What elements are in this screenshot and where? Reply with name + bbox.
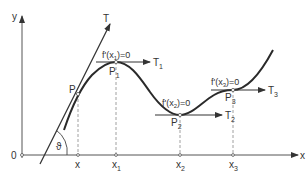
tick-x2 (179, 154, 182, 157)
annotation-f-prime-x2: f'(x2)=0 (162, 98, 190, 109)
label-T2: T2 (225, 110, 235, 123)
label-P1: P1 (109, 66, 120, 79)
label-P2: P2 (171, 117, 182, 130)
origin-point (21, 154, 24, 157)
tick-x3 (232, 154, 235, 157)
angle-label: ϑ (56, 141, 62, 152)
tick-label-x2: x2 (176, 159, 185, 172)
tick-label-x: x (75, 159, 80, 170)
label-T: T (103, 13, 109, 24)
tick-label-x1: x1 (112, 159, 121, 172)
point-P2 (178, 113, 181, 116)
label-T3: T3 (268, 85, 278, 98)
y-axis-label: y (12, 11, 17, 22)
annotation-f-prime-x1: f'(x1)=0 (102, 50, 130, 61)
tick-label-x3: x3 (229, 159, 238, 172)
point-P3 (231, 88, 234, 91)
tick-x1 (115, 154, 118, 157)
label-P: P (69, 84, 76, 95)
point-P (76, 92, 79, 95)
label-T1: T1 (153, 57, 163, 70)
x-axis-label: x (300, 150, 305, 161)
label-P3: P3 (225, 92, 236, 105)
origin-label: 0 (11, 150, 17, 161)
derivative-diagram: y x 0 ϑ P P1 P2 P3 T T1 T2 T3 f'(x1)=0 f… (0, 0, 308, 175)
annotation-f-prime-x3: f'(x3)=0 (211, 77, 239, 88)
tick-x (77, 154, 80, 157)
